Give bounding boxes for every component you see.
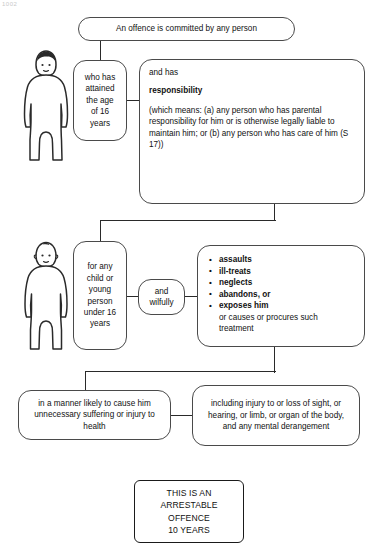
connector-row1-to-row2-horizontal: [100, 220, 276, 221]
connector-child-to-wilfully: [127, 296, 138, 297]
offence-title-text: An offence is committed by any person: [116, 23, 257, 34]
prohibited-acts-tail-text: or causes or procures such treatment: [208, 312, 354, 335]
manner-box: in a manner likely to cause him unnecess…: [18, 390, 171, 440]
connector-row2-to-row3-horizontal: [85, 371, 276, 372]
manner-text: in a manner likely to cause him unnecess…: [28, 398, 161, 432]
child-criteria-box: for any child or young person under 16 y…: [73, 241, 127, 350]
arrestable-line-1: THIS IS AN: [167, 487, 212, 499]
list-item: abandons, or: [208, 289, 354, 301]
person-figure-adult-icon: [17, 48, 75, 164]
connector-age-to-responsibility: [127, 100, 139, 101]
wilfully-box: and wilfully: [138, 279, 185, 315]
injury-box: including injury to or loss of sight, or…: [192, 385, 360, 446]
connector-manner-to-injury: [171, 415, 192, 416]
connector-down-to-child-box: [100, 220, 101, 241]
page-artifact-text: 1002: [2, 1, 17, 7]
list-item: exposes him: [208, 300, 354, 312]
injury-text: including injury to or loss of sight, or…: [202, 398, 350, 432]
person-figure-carer-icon: [17, 240, 75, 352]
list-item: ill-treats: [208, 266, 354, 278]
list-item: assaults: [208, 254, 354, 266]
arrestable-line-3: OFFENCE: [168, 512, 210, 524]
connector-responsibility-down: [274, 204, 275, 221]
responsibility-definition-text: (which means: (a) any person who has par…: [149, 105, 355, 151]
age-criteria-text: who has attained the age of 16 years: [83, 72, 117, 129]
arrestable-line-4: 10 YEARS: [168, 524, 210, 536]
arrestable-line-2: ARRESTABLE: [160, 499, 217, 511]
offence-title-box: An offence is committed by any person: [78, 17, 295, 41]
wilfully-text: and wilfully: [148, 286, 175, 309]
arrestable-offence-box: THIS IS AN ARRESTABLE OFFENCE 10 YEARS: [134, 480, 244, 543]
connector-down-to-manner-box: [85, 371, 86, 391]
responsibility-keyword-text: responsibility: [149, 85, 355, 96]
flowchart-canvas: 1002 An offence is committed by any pers…: [0, 0, 379, 558]
connector-acts-down: [274, 347, 275, 373]
list-item: neglects: [208, 277, 354, 289]
connector-wilfully-to-acts: [185, 296, 197, 297]
age-criteria-box: who has attained the age of 16 years: [73, 60, 127, 141]
connector-title-to-age: [100, 41, 101, 60]
responsibility-intro-text: and has: [149, 67, 355, 78]
responsibility-box: and has responsibility (which means: (a)…: [139, 59, 365, 204]
prohibited-acts-box: assaults ill-treats neglects abandons, o…: [197, 245, 365, 347]
child-criteria-text: for any child or young person under 16 y…: [83, 261, 117, 329]
prohibited-acts-list: assaults ill-treats neglects abandons, o…: [208, 254, 354, 312]
